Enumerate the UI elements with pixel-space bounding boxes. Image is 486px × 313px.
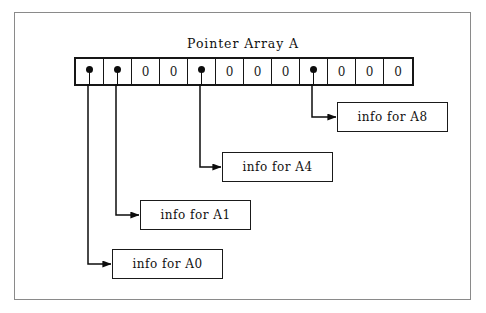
info-box-label: info for A1 [160, 208, 230, 222]
connector-cell0-to-a0 [88, 84, 111, 264]
connector-cell8-to-a8 [312, 84, 336, 117]
info-box-label: info for A4 [242, 160, 312, 174]
diagram-canvas: Pointer Array A 0 0 0 0 0 [0, 0, 486, 313]
connector-cell1-to-a1 [116, 84, 139, 215]
info-box-label: info for A8 [357, 110, 427, 124]
info-box-a8[interactable]: info for A8 [337, 102, 448, 132]
info-box-a1[interactable]: info for A1 [140, 200, 251, 230]
info-box-a0[interactable]: info for A0 [112, 249, 223, 279]
info-box-a4[interactable]: info for A4 [222, 152, 333, 182]
connector-cell4-to-a4 [200, 84, 221, 167]
info-box-label: info for A0 [132, 257, 202, 271]
